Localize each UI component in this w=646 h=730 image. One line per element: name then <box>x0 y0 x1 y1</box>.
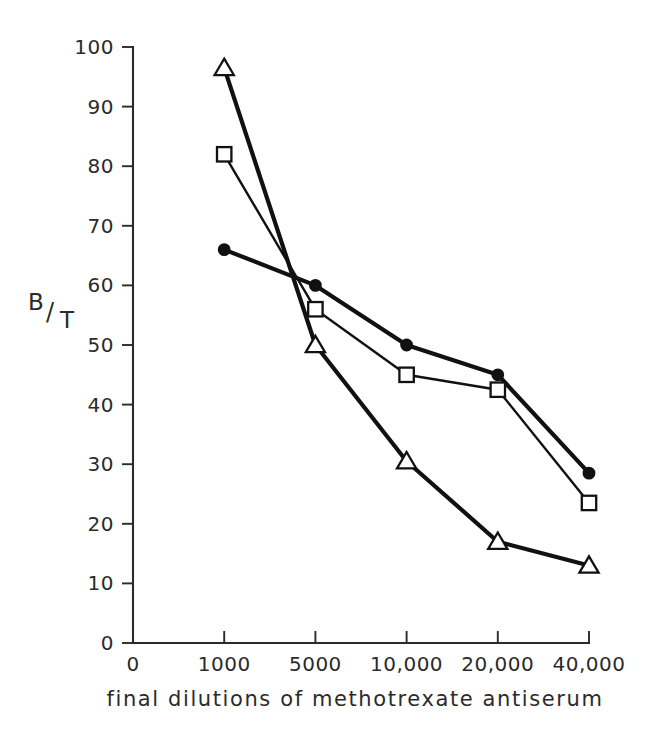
x-tick-label: 0 <box>126 652 139 676</box>
data-point-filled-circle <box>401 340 412 351</box>
series-filled-circle <box>219 244 595 478</box>
y-tick-label: 90 <box>88 95 114 119</box>
y-tick-label: 70 <box>88 214 114 238</box>
line-chart-canvas: 0102030405060708090100 01000500010,00020… <box>0 0 646 730</box>
x-tick-label: 20,000 <box>461 652 534 676</box>
data-point-filled-circle <box>492 369 503 380</box>
data-point-open-square <box>217 147 231 161</box>
x-tick-label: 5000 <box>289 652 342 676</box>
y-tick-label: 10 <box>88 571 114 595</box>
x-tick-label: 10,000 <box>370 652 443 676</box>
y-tick-label: 40 <box>88 393 114 417</box>
x-tick-label: 1000 <box>198 652 251 676</box>
y-axis-ticks: 0102030405060708090100 <box>74 35 133 655</box>
series-line <box>224 250 589 474</box>
data-point-open-square <box>308 302 322 316</box>
y-tick-label: 0 <box>101 631 114 655</box>
x-axis-ticks: 01000500010,00020,00040,000 <box>126 631 625 676</box>
y-axis-title-denominator: T <box>59 307 75 333</box>
axes-group <box>133 47 589 643</box>
y-tick-label: 20 <box>88 512 114 536</box>
data-point-open-square <box>399 368 413 382</box>
data-point-filled-circle <box>584 468 595 479</box>
series-line <box>224 68 589 566</box>
chart-figure: 0102030405060708090100 01000500010,00020… <box>0 0 646 730</box>
data-point-open-square <box>582 496 596 510</box>
y-tick-label: 60 <box>88 273 114 297</box>
data-point-filled-circle <box>219 244 230 255</box>
y-axis-title-numerator: B <box>28 289 44 315</box>
series-open-triangle <box>215 59 599 573</box>
data-point-filled-circle <box>310 280 321 291</box>
y-axis-title: B / T <box>28 289 75 333</box>
y-tick-label: 30 <box>88 452 114 476</box>
x-tick-label: 40,000 <box>553 652 626 676</box>
data-point-open-triangle <box>306 336 325 352</box>
y-axis-title-slash: / <box>46 298 55 326</box>
series-layer <box>215 59 599 573</box>
y-tick-label: 50 <box>88 333 114 357</box>
data-point-open-triangle <box>215 59 234 75</box>
data-point-open-square <box>491 383 505 397</box>
y-tick-label: 100 <box>74 35 114 59</box>
y-tick-label: 80 <box>88 154 114 178</box>
x-axis-title: final dilutions of methotrexate antiseru… <box>107 687 604 711</box>
